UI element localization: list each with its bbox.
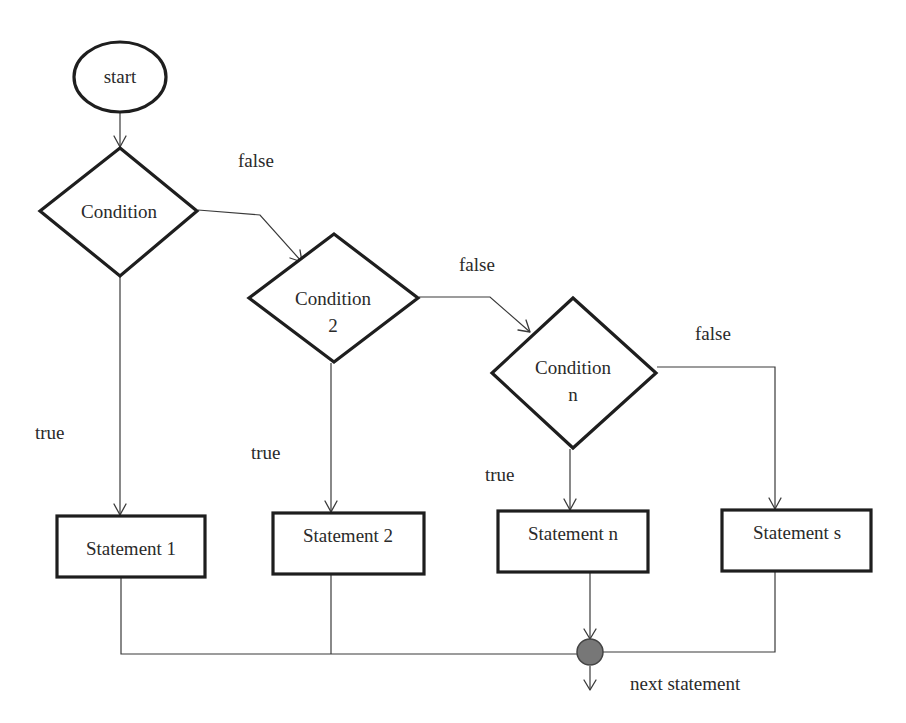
edge-condition-2-true-to-statement-2	[325, 363, 337, 512]
node-condition-2: Condition 2	[249, 234, 418, 362]
node-statement-1: Statement 1	[57, 516, 205, 577]
edge-condition-n-false-to-statement-s	[657, 367, 781, 509]
edge-label-false-n: false	[695, 323, 731, 344]
edge-junction-to-next-statement	[584, 666, 596, 690]
condition-2-label-line2: 2	[328, 315, 338, 336]
edge-start-to-condition	[114, 113, 126, 147]
edge-label-true-2: true	[251, 442, 281, 463]
edge-label-true-1: true	[35, 422, 65, 443]
statement-s-label: Statement s	[753, 522, 841, 543]
edge-statements-to-junction	[121, 572, 775, 654]
edge-condition-n-true-to-statement-n	[564, 449, 576, 510]
start-label: start	[104, 66, 137, 87]
edge-condition-2-false-to-condition-n	[419, 297, 530, 332]
condition-2-label-line1: Condition	[295, 288, 372, 309]
edge-label-false-2: false	[459, 254, 495, 275]
condition-n-label-line2: n	[568, 384, 578, 405]
statement-1-label: Statement 1	[86, 538, 176, 559]
condition-n-label-line1: Condition	[535, 357, 612, 378]
node-statement-n: Statement n	[498, 511, 648, 572]
edge-label-true-n: true	[485, 464, 515, 485]
node-start: start	[74, 42, 166, 112]
condition-1-label: Condition	[81, 201, 158, 222]
junction-node	[577, 639, 603, 665]
flowchart-canvas: start Condition Condition 2 Condition n …	[0, 0, 906, 723]
edge-condition-true-to-statement-1	[114, 277, 126, 515]
node-statement-2: Statement 2	[273, 513, 424, 574]
edge-label-false-1: false	[238, 150, 274, 171]
node-condition-1: Condition	[40, 148, 197, 276]
statement-2-label: Statement 2	[303, 525, 393, 546]
node-statement-s: Statement s	[722, 510, 871, 571]
next-statement-label: next statement	[630, 673, 741, 694]
flowchart-svg: start Condition Condition 2 Condition n …	[0, 0, 906, 723]
statement-n-label: Statement n	[528, 523, 619, 544]
edge-condition-false-to-condition-2	[198, 210, 302, 262]
